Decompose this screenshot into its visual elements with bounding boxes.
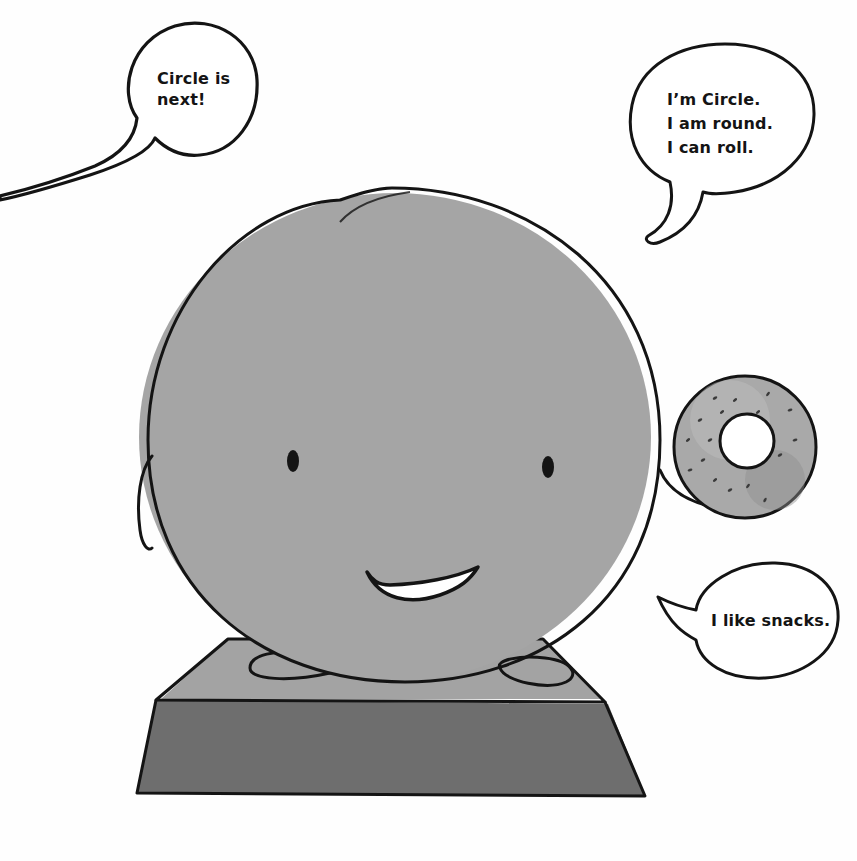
circle-body <box>139 193 651 681</box>
bubble-line: I am round. <box>667 112 773 136</box>
picture-book-page: Circle is next! I’m Circle. I am round. … <box>0 0 857 861</box>
donut-icon <box>674 376 816 518</box>
announcer-bubble-text: Circle is next! <box>157 68 230 110</box>
snacks-bubble-text: I like snacks. <box>711 610 830 631</box>
bubble-line: I can roll. <box>667 136 773 160</box>
bubble-line: I’m Circle. <box>667 88 773 112</box>
intro-bubble-text: I’m Circle. I am round. I can roll. <box>667 88 773 160</box>
bubble-line: next! <box>157 89 230 110</box>
right-eye <box>542 456 554 478</box>
left-eye <box>287 450 299 472</box>
speech-bubble-announcer <box>0 23 257 200</box>
circle-character <box>139 188 731 682</box>
bubble-line: I like snacks. <box>711 610 830 631</box>
bubble-line: Circle is <box>157 68 230 89</box>
